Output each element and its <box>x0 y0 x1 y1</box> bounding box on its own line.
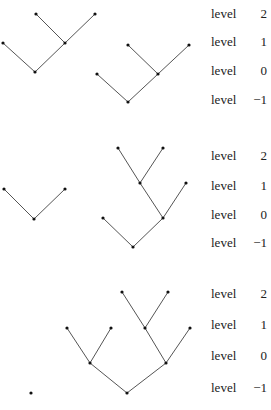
tree-node <box>131 245 134 248</box>
tree-node <box>29 391 32 394</box>
tree-node <box>166 290 169 293</box>
tree-node <box>164 361 167 364</box>
tree <box>2 187 66 220</box>
tree <box>95 43 190 103</box>
tree-node <box>126 100 129 103</box>
level-label: level0 <box>211 349 267 363</box>
level-label: level1 <box>211 35 267 49</box>
level-word: level <box>211 381 249 395</box>
tree-node <box>184 181 187 184</box>
tree-node <box>187 43 190 46</box>
level-word: level <box>211 179 249 193</box>
tree-node <box>88 361 91 364</box>
level-number: 1 <box>249 179 267 193</box>
tree-edge <box>140 183 163 218</box>
level-number: 0 <box>249 208 267 222</box>
level-label: level2 <box>211 287 267 301</box>
level-word: level <box>211 349 249 363</box>
tree-node <box>93 12 96 15</box>
level-number: 2 <box>249 149 267 163</box>
level-word: level <box>211 149 249 163</box>
level-label: level2 <box>211 7 267 21</box>
panel-3 <box>29 290 191 394</box>
level-number: 2 <box>249 7 267 21</box>
tree-node <box>33 70 36 73</box>
panel-1 <box>1 12 190 103</box>
level-word: level <box>211 93 249 107</box>
tree-edge <box>97 74 128 102</box>
tree-edge <box>163 183 186 218</box>
level-word: level <box>211 64 249 78</box>
tree-edge <box>65 14 95 43</box>
tree-edge <box>118 148 140 183</box>
level-number: 1 <box>249 35 267 49</box>
level-word: level <box>211 35 249 49</box>
tree-edge <box>90 328 111 363</box>
level-label: level0 <box>211 208 267 222</box>
level-word: level <box>211 318 249 332</box>
tree-node <box>116 146 119 149</box>
tree-node <box>156 72 159 75</box>
tree-node <box>95 72 98 75</box>
level-number: −1 <box>249 381 267 395</box>
tree-edge <box>90 363 127 393</box>
tree-node <box>63 187 66 190</box>
tree-edge <box>67 328 90 363</box>
tree-node <box>109 326 112 329</box>
tree <box>65 290 191 394</box>
level-number: −1 <box>249 236 267 250</box>
tree-edge <box>127 363 166 393</box>
tree-edge <box>3 43 35 72</box>
tree-edge <box>34 189 65 219</box>
tree-edge <box>140 148 163 183</box>
tree-node <box>161 146 164 149</box>
level-word: level <box>211 208 249 222</box>
level-label: level−1 <box>211 381 267 395</box>
tree-node <box>63 41 66 44</box>
level-number: 0 <box>249 64 267 78</box>
tree-node <box>65 326 68 329</box>
tree-edge <box>145 328 166 363</box>
tree-edge <box>103 218 133 247</box>
level-label: level−1 <box>211 236 267 250</box>
tree <box>1 12 96 73</box>
level-number: 0 <box>249 349 267 363</box>
tree-node <box>34 12 37 15</box>
tree-node <box>2 187 5 190</box>
tree-node <box>188 326 191 329</box>
tree-node <box>161 216 164 219</box>
tree-node <box>143 326 146 329</box>
level-label: level1 <box>211 179 267 193</box>
level-label: level2 <box>211 149 267 163</box>
tree-node <box>126 43 129 46</box>
level-word: level <box>211 287 249 301</box>
tree-node <box>125 391 128 394</box>
tree-edge <box>122 292 145 328</box>
tree-node <box>32 217 35 220</box>
tree-edge <box>36 14 65 43</box>
level-label: level−1 <box>211 93 267 107</box>
tree-edge <box>133 218 163 247</box>
level-word: level <box>211 7 249 21</box>
tree-edge <box>35 43 65 72</box>
panel-2 <box>2 146 187 248</box>
tree-edge <box>4 189 34 219</box>
level-label: level1 <box>211 318 267 332</box>
tree-edge <box>166 328 190 363</box>
tree-node <box>138 181 141 184</box>
tree <box>101 146 187 248</box>
level-number: −1 <box>249 93 267 107</box>
tree-node <box>1 41 4 44</box>
level-label: level0 <box>211 64 267 78</box>
tree-node <box>120 290 123 293</box>
tree-edge <box>158 45 189 74</box>
tree <box>29 391 32 394</box>
tree-edge <box>128 45 158 74</box>
tree-edge <box>145 292 168 328</box>
tree-node <box>101 216 104 219</box>
level-number: 2 <box>249 287 267 301</box>
level-number: 1 <box>249 318 267 332</box>
level-word: level <box>211 236 249 250</box>
tree-edge <box>128 74 158 102</box>
